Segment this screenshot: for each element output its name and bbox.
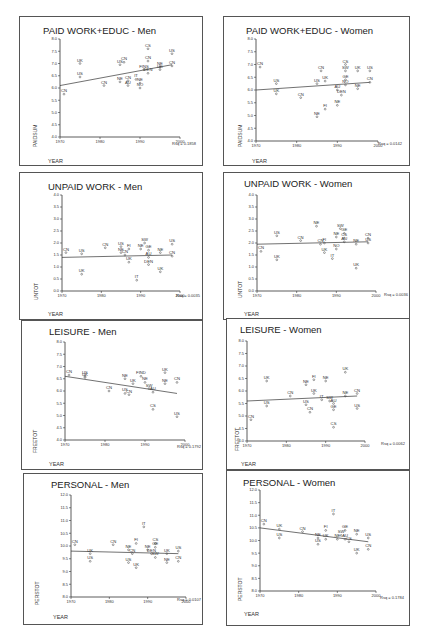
data-point — [132, 383, 134, 385]
point-label: NE — [333, 231, 339, 236]
point-label: US — [264, 400, 270, 405]
y-tick-label: 8.5 — [62, 582, 68, 587]
point-label: NE — [142, 376, 148, 381]
data-point — [356, 393, 358, 395]
data-point — [276, 235, 278, 237]
data-point — [127, 85, 129, 87]
x-tick-label: 1990 — [136, 293, 146, 298]
point-label: CN — [261, 518, 267, 523]
data-point — [89, 553, 91, 555]
point-label: CS — [150, 403, 156, 408]
y-tick-label: 10.5 — [249, 525, 258, 530]
data-point — [321, 399, 323, 401]
data-point — [147, 72, 149, 74]
point-label: IT — [135, 274, 139, 279]
point-label: US — [175, 545, 181, 550]
regression-line — [62, 255, 172, 257]
point-label: CN — [169, 60, 175, 65]
x-tick-label: 1980 — [292, 143, 302, 148]
x-tick-label: 1990 — [321, 443, 331, 448]
point-label: DEN — [144, 67, 153, 72]
y-tick-label: 10.0 — [60, 543, 69, 548]
point-label: CN — [307, 406, 313, 411]
y-tick-label: 4.5 — [56, 425, 62, 430]
point-label: UK — [164, 548, 170, 553]
point-label: NO — [137, 82, 144, 87]
data-point — [159, 271, 161, 273]
data-point — [325, 380, 327, 382]
y-tick-label: 8.5 — [251, 576, 257, 581]
data-point — [333, 513, 335, 515]
point-label: UK — [342, 366, 348, 371]
data-point — [171, 255, 173, 257]
point-label: CN — [298, 92, 304, 97]
point-label: CN — [129, 548, 135, 553]
point-label: SW — [342, 65, 349, 70]
point-label: CS — [145, 43, 151, 48]
point-label: DEN — [337, 89, 346, 94]
data-point — [305, 384, 307, 386]
point-label: NE — [342, 390, 348, 395]
point-label: NE — [314, 111, 320, 116]
y-axis-label: PERSTOT — [237, 577, 243, 601]
point-label: IT — [142, 521, 146, 526]
y-tick-label: 2.5 — [248, 228, 254, 233]
x-tick-label: 1970 — [61, 442, 71, 447]
data-point — [140, 248, 142, 250]
data-point — [333, 426, 335, 428]
data-point — [320, 243, 322, 245]
y-tick-label: 4.0 — [53, 192, 59, 197]
point-label: CN — [101, 80, 107, 85]
point-label: CN — [365, 543, 371, 548]
data-point — [128, 394, 130, 396]
point-label: IT — [320, 394, 324, 399]
point-label: UK — [130, 378, 136, 383]
y-tick-label: 2.0 — [248, 240, 254, 245]
point-label: US — [365, 532, 371, 537]
point-label: CN — [72, 539, 78, 544]
data-point — [367, 548, 369, 550]
y-tick-label: 11.5 — [250, 500, 258, 505]
data-point — [152, 391, 154, 393]
chart-panel-leisure-men: LEISURE - Men 4.04.55.05.56.06.57.07.58.… — [21, 320, 203, 470]
r-squared-label: Rsq = 0.0107 — [177, 597, 201, 602]
point-label: UK — [157, 266, 163, 271]
point-label: US — [273, 78, 279, 83]
y-tick-label: 1.5 — [248, 252, 254, 257]
data-point — [143, 526, 145, 528]
data-point — [177, 560, 179, 562]
chart-panel-personal-women: PERSONAL - Women 8.08.59.09.510.010.511.… — [226, 470, 410, 626]
data-point — [81, 253, 83, 255]
y-tick-label: 5.0 — [51, 110, 57, 115]
data-point — [367, 242, 369, 244]
point-label: CN — [126, 389, 132, 394]
chart-panel-paid-women: PAID WORK+EDUC - Women 4.04.55.05.56.06.… — [223, 16, 410, 166]
point-label: UK — [87, 548, 93, 553]
data-point — [357, 88, 359, 90]
point-label: UK — [133, 562, 139, 567]
point-label: FI — [127, 243, 131, 248]
point-label: US — [169, 238, 175, 243]
y-tick-label: 11.0 — [250, 513, 258, 518]
data-point — [356, 408, 358, 410]
data-point — [320, 70, 322, 72]
data-point — [81, 273, 83, 275]
point-label: CN — [102, 242, 108, 247]
y-axis-label: PERSTOT — [34, 581, 40, 605]
point-label: FI — [134, 537, 138, 542]
data-point — [136, 279, 138, 281]
x-tick-label: 1980 — [96, 139, 106, 144]
data-point — [84, 377, 86, 379]
y-tick-label: 9.5 — [251, 551, 257, 556]
r-squared-label: Rsq = 0.0062 — [381, 441, 405, 446]
data-point — [275, 83, 277, 85]
y-tick-label: 4.0 — [248, 192, 254, 197]
point-label: SW — [152, 551, 159, 556]
point-label: UK — [322, 75, 328, 80]
point-label: NE — [323, 375, 329, 380]
point-label: NE — [314, 220, 320, 225]
x-axis-label: YEAR — [252, 158, 267, 164]
point-label: NE — [157, 247, 163, 252]
y-tick-label: 7.0 — [56, 364, 62, 369]
point-label: AU — [146, 251, 152, 256]
